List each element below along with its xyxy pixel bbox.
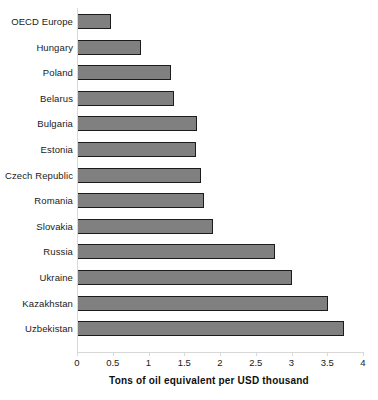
- bar-czech-republic: [77, 168, 201, 183]
- bar-kazakhstan: [77, 296, 328, 311]
- bar-estonia: [77, 142, 196, 157]
- x-tick-mark: [184, 352, 185, 356]
- category-label-czech-republic: Czech Republic: [0, 170, 73, 181]
- bar-rect: [77, 40, 141, 55]
- x-tick-label: 3.5: [321, 357, 334, 369]
- x-axis-title: Tons of oil equivalent per USD thousand: [0, 375, 378, 386]
- bar-rect: [77, 14, 111, 29]
- bar-rect: [77, 91, 174, 106]
- bar-ukraine: [77, 270, 292, 285]
- x-tick-label: 2: [217, 357, 222, 369]
- category-axis-labels: OECD EuropeHungaryPolandBelarusBulgariaE…: [0, 8, 73, 350]
- x-tick-mark: [363, 352, 364, 356]
- category-label-poland: Poland: [0, 67, 73, 78]
- bar-rect: [77, 65, 171, 80]
- bar-rect: [77, 321, 344, 336]
- bar-rect: [77, 142, 196, 157]
- category-label-belarus: Belarus: [0, 93, 73, 104]
- x-tick-label: 1: [146, 357, 151, 369]
- bar-oecd-europe: [77, 14, 111, 29]
- category-label-uzbekistan: Uzbekistan: [0, 323, 73, 334]
- bar-uzbekistan: [77, 321, 344, 336]
- y-axis-line: [77, 8, 78, 352]
- bar-chart: OECD EuropeHungaryPolandBelarusBulgariaE…: [0, 0, 378, 400]
- bar-rect: [77, 116, 197, 131]
- x-tick-label: 4: [360, 357, 365, 369]
- bar-slovakia: [77, 219, 213, 234]
- category-label-russia: Russia: [0, 246, 73, 257]
- bar-rect: [77, 270, 292, 285]
- x-tick-label: 2.5: [249, 357, 262, 369]
- x-tick-label: 1.5: [178, 357, 191, 369]
- bar-belarus: [77, 91, 174, 106]
- bar-rect: [77, 168, 201, 183]
- bar-rect: [77, 296, 328, 311]
- bar-hungary: [77, 40, 141, 55]
- x-tick-mark: [77, 352, 78, 356]
- bar-rect: [77, 193, 204, 208]
- category-label-oecd-europe: OECD Europe: [0, 16, 73, 27]
- bar-rect: [77, 244, 275, 259]
- category-label-kazakhstan: Kazakhstan: [0, 298, 73, 309]
- x-tick-mark: [113, 352, 114, 356]
- x-tick-mark: [256, 352, 257, 356]
- category-label-bulgaria: Bulgaria: [0, 118, 73, 129]
- x-tick-mark: [220, 352, 221, 356]
- x-tick-label: 0.5: [106, 357, 119, 369]
- category-label-hungary: Hungary: [0, 42, 73, 53]
- bar-bulgaria: [77, 116, 197, 131]
- x-tick-mark: [149, 352, 150, 356]
- category-label-slovakia: Slovakia: [0, 221, 73, 232]
- bar-poland: [77, 65, 171, 80]
- x-tick-mark: [327, 352, 328, 356]
- x-tick-label: 3: [289, 357, 294, 369]
- category-label-romania: Romania: [0, 195, 73, 206]
- bar-rect: [77, 219, 213, 234]
- x-tick-mark: [292, 352, 293, 356]
- x-tick-label: 0: [74, 357, 79, 369]
- category-label-estonia: Estonia: [0, 144, 73, 155]
- category-label-ukraine: Ukraine: [0, 272, 73, 283]
- bar-romania: [77, 193, 204, 208]
- plot-area: [77, 8, 363, 350]
- bar-russia: [77, 244, 275, 259]
